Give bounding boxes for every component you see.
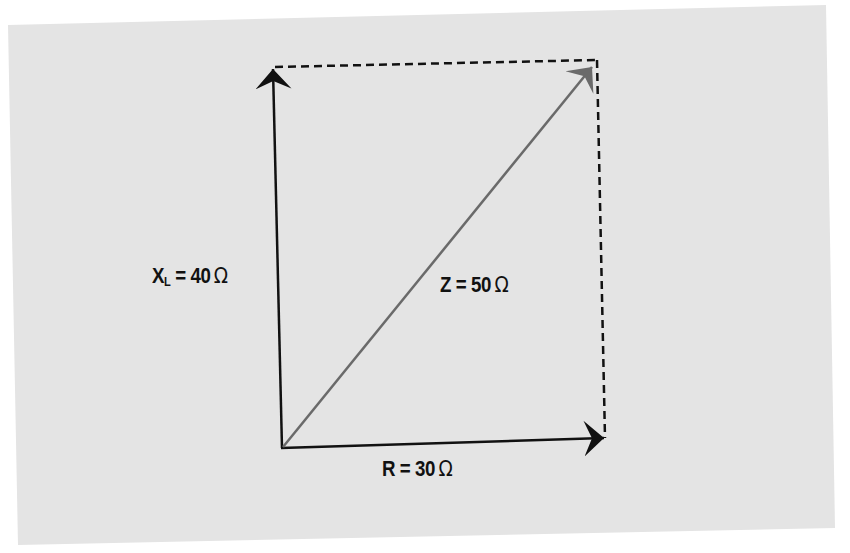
reactance-symbol: X — [152, 263, 164, 288]
ohm-unit-icon: Ω — [214, 263, 228, 288]
resistance-value: = 30 — [395, 456, 435, 481]
reactance-value: = 40 — [170, 263, 210, 288]
resistance-label: R = 30Ω — [382, 456, 452, 482]
ohm-unit-icon: Ω — [494, 272, 508, 297]
resistance-symbol: R — [382, 456, 395, 481]
reactance-label: XL = 40Ω — [152, 263, 228, 289]
impedance-value: = 50 — [451, 272, 491, 297]
ohm-unit-icon: Ω — [438, 456, 452, 481]
impedance-label: Z = 50Ω — [440, 272, 508, 298]
impedance-symbol: Z — [440, 272, 451, 297]
